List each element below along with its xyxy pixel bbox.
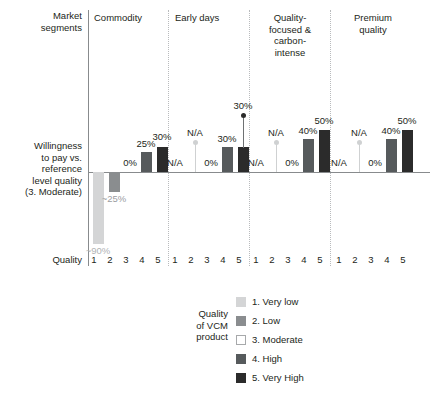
xtick-2: 3 <box>119 254 133 265</box>
bar-label-early-5: 30% <box>222 101 264 111</box>
legend-label-very-low: 1. Very low <box>252 296 298 307</box>
xtick-9: 5 <box>232 254 246 265</box>
xtick-12: 3 <box>281 254 295 265</box>
bar-commodity-4[interactable] <box>141 152 152 172</box>
xtick-13: 4 <box>297 254 311 265</box>
xtick-8: 4 <box>216 254 230 265</box>
legend-label-very-high: 5. Very High <box>252 372 304 383</box>
xtick-17: 3 <box>364 254 378 265</box>
legend-label-moderate: 3. Moderate <box>252 334 303 345</box>
na-dot-premium-2 <box>357 140 362 145</box>
legend-item-moderate[interactable]: 3. Moderate <box>236 330 304 349</box>
legend-item-very-low[interactable]: 1. Very low <box>236 292 304 311</box>
legend-item-very-high[interactable]: 5. Very High <box>236 368 304 387</box>
legend-swatch-very-low <box>236 297 246 307</box>
bar-label-premium-5: 50% <box>386 116 428 126</box>
bar-commodity-2[interactable] <box>109 172 120 192</box>
xtick-7: 3 <box>200 254 214 265</box>
legend-items: 1. Very low 2. Low 3. Moderate 4. High 5… <box>236 292 304 387</box>
legend-item-low[interactable]: 2. Low <box>236 311 304 330</box>
na-dot-early-2 <box>193 140 198 145</box>
legend-swatch-very-high <box>236 373 246 383</box>
legend-swatch-moderate <box>236 335 246 345</box>
xtick-14: 5 <box>313 254 327 265</box>
bar-early-4[interactable] <box>222 147 233 172</box>
bar-label-quality-5: 50% <box>303 116 345 126</box>
bar-label-early-4: 30% <box>206 134 248 144</box>
xtick-18: 4 <box>380 254 394 265</box>
xtick-19: 5 <box>396 254 410 265</box>
bar-premium-5[interactable] <box>402 130 413 172</box>
marker-dot-early-5 <box>241 113 246 118</box>
xtick-0: 1 <box>87 254 101 265</box>
y-axis-label: Willingnessto pay vs.referencelevel qual… <box>2 140 82 198</box>
plot-area: ~90% ~25% 0% 25% 30% N/A N/A 0% 30% 30% … <box>88 10 430 266</box>
xtick-6: 2 <box>184 254 198 265</box>
bar-premium-4[interactable] <box>386 139 397 172</box>
xtick-4: 5 <box>151 254 165 265</box>
xtick-10: 1 <box>249 254 263 265</box>
legend-title: Qualityof VCMproduct <box>168 308 228 343</box>
xtick-3: 4 <box>135 254 149 265</box>
xtick-15: 1 <box>332 254 346 265</box>
legend-item-high[interactable]: 4. High <box>236 349 304 368</box>
legend-label-low: 2. Low <box>252 315 280 326</box>
legend-swatch-low <box>236 316 246 326</box>
legend-swatch-high <box>236 354 246 364</box>
marker-stem-early-5 <box>243 116 244 148</box>
bar-commodity-1[interactable] <box>93 172 104 244</box>
na-dot-quality-2 <box>274 140 279 145</box>
x-axis-label: Quality <box>4 254 82 266</box>
xtick-16: 2 <box>348 254 362 265</box>
legend-label-high: 4. High <box>252 353 282 364</box>
xtick-5: 1 <box>168 254 182 265</box>
chart-root: Marketsegments Willingnessto pay vs.refe… <box>0 0 432 395</box>
bar-label-commodity-2: ~25% <box>93 194 135 204</box>
market-segments-label: Marketsegments <box>4 10 82 33</box>
xtick-11: 2 <box>265 254 279 265</box>
xtick-1: 2 <box>103 254 117 265</box>
bar-quality-4[interactable] <box>303 139 314 172</box>
